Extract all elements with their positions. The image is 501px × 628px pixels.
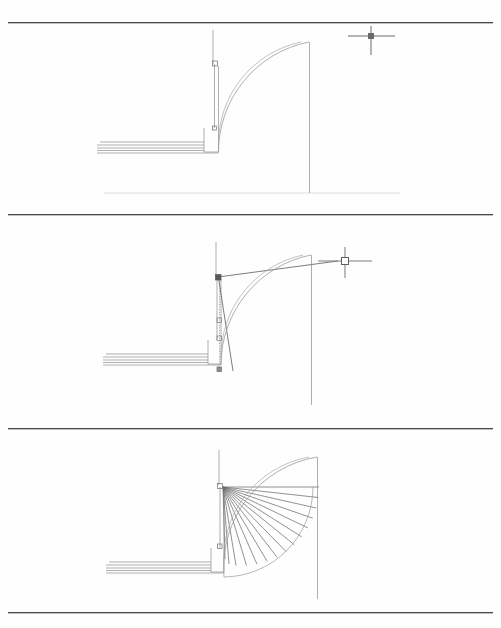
landing-block [211, 548, 224, 572]
crosshair-pickbox [369, 34, 374, 39]
landing-block [204, 128, 219, 152]
figure-2-panel [0, 215, 501, 427]
curved-wall-arc-inner [224, 457, 309, 569]
crosshair-pickbox [342, 258, 349, 265]
snap-marker-top [216, 275, 222, 281]
crosshair-cursor [348, 26, 395, 55]
curved-wall-arc-outer [218, 42, 309, 153]
stair-nosing-arc [224, 487, 313, 577]
figure-3-panel [0, 429, 501, 611]
radial-tread-lines [223, 487, 319, 566]
figure-1-panel [0, 23, 501, 213]
curved-wall-arc-inner [221, 255, 303, 358]
caption-cropped [0, 621, 501, 628]
page-canvas [0, 0, 501, 628]
bottom-rule [8, 612, 493, 613]
curved-wall-arc-inner [218, 42, 301, 146]
curved-wall-arc-outer [221, 255, 311, 365]
snap-marker-bottom [217, 367, 222, 372]
